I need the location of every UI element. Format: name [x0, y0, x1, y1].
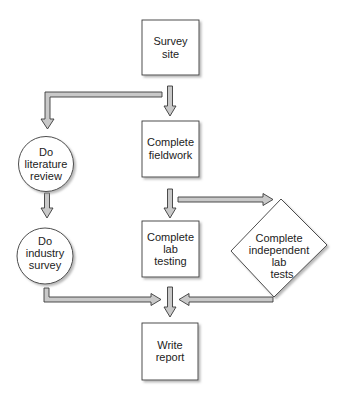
node-literature-line-3: review [30, 170, 62, 182]
node-complete-fieldwork-line-1: Complete [147, 136, 194, 148]
node-write-report-line-2: report [156, 351, 185, 363]
node-independent-line-1: Complete [255, 232, 302, 244]
node-lab-testing-line-2: lab [163, 243, 178, 255]
node-do-literature-review: Do literature review [19, 137, 74, 192]
node-survey-site-line-2: site [162, 48, 179, 60]
node-do-industry-survey: Do industry survey [17, 228, 73, 284]
arrow-literature-to-industry [41, 193, 53, 218]
node-industry-line-3: survey [29, 259, 62, 271]
node-write-report: Write report [142, 323, 198, 380]
node-complete-fieldwork: Complete fieldwork [142, 121, 199, 177]
flowchart-canvas: Survey site Complete fieldwork Do litera… [0, 0, 345, 394]
node-lab-testing-line-1: Complete [147, 231, 194, 243]
node-survey-site: Survey site [142, 20, 199, 75]
node-write-report-line-1: Write [157, 339, 182, 351]
node-literature-line-1: Do [39, 146, 53, 158]
node-lab-testing-line-3: testing [154, 255, 186, 267]
node-independent-line-4: tests [270, 268, 294, 280]
node-complete-fieldwork-line-2: fieldwork [149, 149, 193, 161]
arrow-independent-to-report [179, 294, 273, 306]
arrow-survey-to-fieldwork [164, 86, 176, 116]
node-literature-line-2: literature [25, 158, 68, 170]
arrow-lab-testing-to-report [164, 287, 176, 317]
node-industry-line-2: industry [26, 247, 65, 259]
node-complete-lab-testing: Complete lab testing [142, 221, 199, 277]
node-independent-line-3: lab [272, 256, 287, 268]
node-industry-line-1: Do [38, 235, 52, 247]
node-survey-site-line-1: Survey [153, 35, 188, 47]
arrow-fieldwork-to-independent-tests [178, 194, 273, 206]
arrow-fieldwork-to-lab-testing [164, 189, 176, 218]
arrow-industry-to-report [44, 288, 161, 306]
node-independent-line-2: independent [249, 244, 310, 256]
node-complete-independent-lab-tests: Complete independent lab tests [231, 199, 327, 297]
